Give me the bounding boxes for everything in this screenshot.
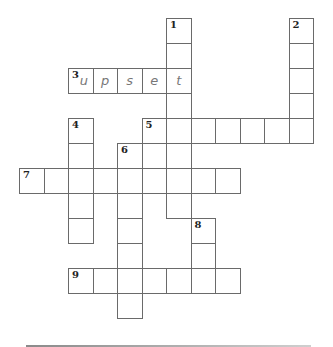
crossword-cell[interactable]: 9 (68, 268, 94, 294)
crossword-cell[interactable]: e (142, 68, 168, 94)
clue-number: 1 (170, 20, 177, 30)
crossword-cell[interactable] (289, 118, 315, 144)
crossword-cell[interactable] (68, 218, 94, 244)
crossword-cell[interactable] (44, 168, 70, 194)
crossword-cell[interactable]: 2 (289, 18, 315, 44)
crossword-cell[interactable] (215, 268, 241, 294)
crossword-cell[interactable] (117, 218, 143, 244)
crossword-cell[interactable] (191, 243, 217, 269)
crossword-cell[interactable] (289, 68, 315, 94)
crossword-cell[interactable] (117, 293, 143, 319)
crossword-cell[interactable] (93, 268, 119, 294)
crossword-cell[interactable]: 4 (68, 118, 94, 144)
crossword-cell[interactable] (289, 93, 315, 119)
crossword-cell[interactable]: t (166, 68, 192, 94)
crossword-cell[interactable]: 5 (142, 118, 168, 144)
crossword-cell[interactable]: 7 (19, 168, 45, 194)
crossword-cell[interactable] (166, 168, 192, 194)
crossword-cell[interactable] (117, 193, 143, 219)
crossword-cell[interactable] (191, 118, 217, 144)
crossword-cell[interactable]: 6 (117, 143, 143, 169)
crossword-cell[interactable] (191, 268, 217, 294)
crossword-cell[interactable] (166, 118, 192, 144)
crossword-cell[interactable]: p (93, 68, 119, 94)
crossword-cell[interactable] (142, 168, 168, 194)
clue-number: 4 (72, 120, 79, 130)
crossword-cell[interactable] (166, 43, 192, 69)
entry-letter: p (94, 74, 118, 88)
crossword-cell[interactable] (215, 168, 241, 194)
clue-number: 6 (121, 145, 128, 155)
crossword-cell[interactable] (166, 193, 192, 219)
crossword-cell[interactable] (117, 268, 143, 294)
crossword-cell[interactable] (166, 143, 192, 169)
clue-number: 9 (72, 270, 79, 280)
crossword-cell[interactable] (117, 168, 143, 194)
crossword-cell[interactable] (142, 268, 168, 294)
crossword-cell[interactable]: s (117, 68, 143, 94)
crossword-cell[interactable] (191, 168, 217, 194)
entry-letter: t (167, 74, 191, 88)
crossword-cell[interactable] (68, 143, 94, 169)
clue-number: 5 (146, 120, 153, 130)
crossword-cell[interactable] (264, 118, 290, 144)
crossword-cell[interactable]: 8 (191, 218, 217, 244)
clue-number: 8 (195, 220, 202, 230)
entry-letter: e (143, 74, 167, 88)
crossword-cell[interactable] (117, 243, 143, 269)
crossword-cell[interactable] (240, 118, 266, 144)
crossword-cell[interactable] (289, 43, 315, 69)
crossword-cell[interactable] (166, 93, 192, 119)
crossword-cell[interactable]: 3u (68, 68, 94, 94)
crossword-cell[interactable] (68, 168, 94, 194)
crossword-cell[interactable] (68, 193, 94, 219)
crossword-grid: 1t23upse456789 (0, 0, 333, 347)
crossword-cell[interactable] (93, 168, 119, 194)
entry-letter: s (118, 74, 142, 88)
entry-letter: u (75, 74, 93, 88)
crossword-cell[interactable]: 1 (166, 18, 192, 44)
crossword-cell[interactable] (215, 118, 241, 144)
clue-number: 7 (23, 170, 30, 180)
crossword-cell[interactable] (166, 268, 192, 294)
clue-number: 2 (293, 20, 300, 30)
